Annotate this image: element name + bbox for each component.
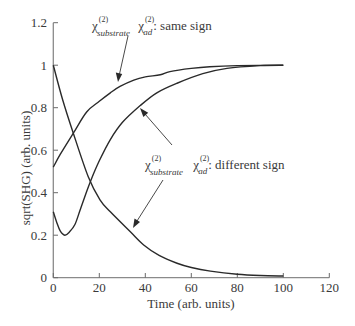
y-tick-label: 0.2	[31, 228, 47, 243]
y-tick-label: 0.4	[31, 185, 48, 200]
curve-different-sign	[53, 65, 283, 235]
arrow-different-sign-decaying	[133, 180, 163, 228]
arrowhead-icon	[133, 219, 140, 229]
y-tick-label: 0.6	[31, 143, 48, 158]
annotation-same-sign: χ(2)substrateχ(2)ad: same sign	[91, 15, 212, 38]
x-ticks	[53, 273, 329, 278]
y-ticks	[53, 23, 58, 278]
x-tick-label: 60	[185, 280, 198, 295]
y-axis-label: sqrt(SHG) (arb. units)	[18, 111, 33, 225]
x-tick-label: 80	[231, 280, 244, 295]
x-tick-label: 120	[320, 280, 340, 295]
arrow-same-sign	[116, 36, 128, 82]
x-tick-label: 40	[139, 280, 152, 295]
x-axis-label: Time (arb. units)	[147, 296, 234, 311]
x-tick-label: 0	[50, 280, 57, 295]
x-tick-labels: 0 20 40 60 80 100 120	[50, 280, 339, 295]
chart: 0 0.2 0.4 0.6 0.8 1 1.2 0 20 40 60 80 10…	[0, 0, 355, 326]
annotation-different-sign: χ(2)substrateχ(2)ad: different sign	[144, 154, 285, 177]
x-tick-label: 20	[93, 280, 106, 295]
y-tick-label: 0	[41, 270, 48, 285]
arrow-different-sign-rising	[140, 108, 172, 145]
y-tick-label: 1.2	[31, 15, 47, 30]
y-tick-labels: 0 0.2 0.4 0.6 0.8 1 1.2	[31, 15, 48, 285]
y-tick-label: 1	[41, 58, 48, 73]
x-tick-label: 100	[274, 280, 294, 295]
arrowhead-icon	[116, 73, 122, 83]
curve-same-sign	[53, 65, 283, 167]
y-tick-label: 0.8	[31, 100, 47, 115]
